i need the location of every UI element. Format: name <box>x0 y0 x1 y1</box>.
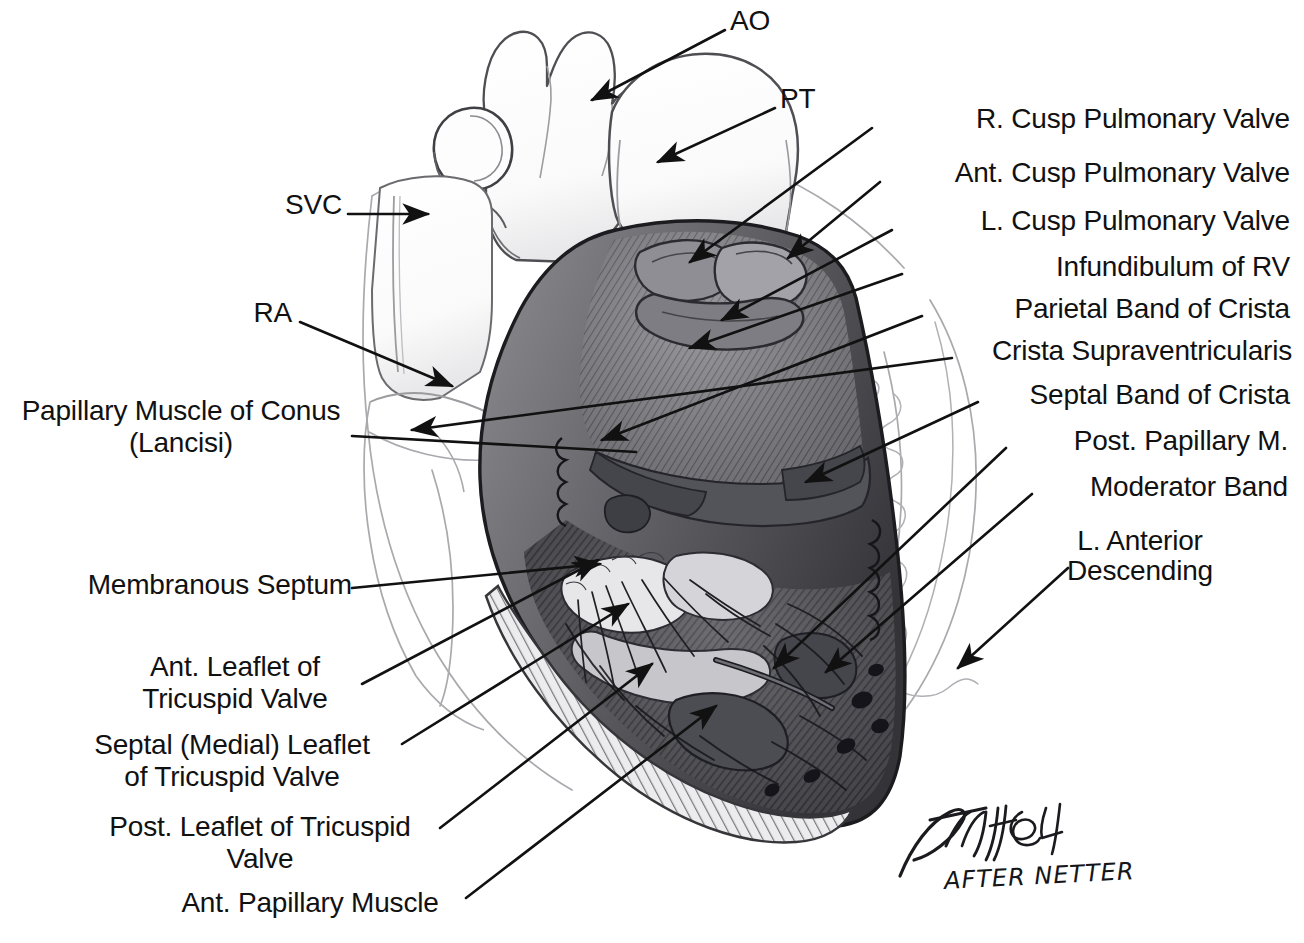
label-septal-leaflet-tricuspid-line1: Septal (Medial) Leaflet <box>60 730 404 760</box>
label-ant-leaflet-tricuspid-line1: Ant. Leaflet of <box>110 652 360 682</box>
label-pt: PT <box>780 84 815 114</box>
superior-vena-cava <box>372 176 492 400</box>
label-septal-band-of-crista: Septal Band of Crista <box>870 380 1290 410</box>
label-ant-leaflet-tricuspid-line2: Tricuspid Valve <box>110 684 360 714</box>
label-l-cusp-pulmonary-valve: L. Cusp Pulmonary Valve <box>870 206 1290 236</box>
label-post-leaflet-tricuspid-line2: Valve <box>80 844 440 874</box>
label-papillary-muscle-of-conus-line2: (Lancisi) <box>6 428 356 458</box>
leader-ant-cusp <box>788 182 880 258</box>
label-ao: AO <box>730 6 770 36</box>
label-septal-leaflet-tricuspid-line2: of Tricuspid Valve <box>60 762 404 792</box>
label-ant-papillary-muscle: Ant. Papillary Muscle <box>150 888 470 918</box>
anatomy-figure: AO PT SVC RA R. Cusp Pulmonary Valve Ant… <box>0 0 1304 943</box>
label-crista-supraventricularis: Crista Supraventricularis <box>870 336 1292 366</box>
label-papillary-muscle-of-conus-line1: Papillary Muscle of Conus <box>6 396 356 426</box>
label-post-papillary-m: Post. Papillary M. <box>870 426 1288 456</box>
label-l-anterior-descending-line2: Descending <box>1010 556 1270 586</box>
label-ant-cusp-pulmonary-valve: Ant. Cusp Pulmonary Valve <box>870 158 1290 188</box>
label-post-leaflet-tricuspid-line1: Post. Leaflet of Tricuspid <box>80 812 440 842</box>
label-parietal-band-of-crista: Parietal Band of Crista <box>870 294 1290 324</box>
label-r-cusp-pulmonary-valve: R. Cusp Pulmonary Valve <box>870 104 1290 134</box>
label-ra: RA <box>150 298 292 328</box>
label-membranous-septum: Membranous Septum <box>0 570 352 600</box>
label-moderator-band: Moderator Band <box>870 472 1288 502</box>
label-l-anterior-descending-line1: L. Anterior <box>1010 526 1270 556</box>
label-infundibulum-of-rv: Infundibulum of RV <box>870 252 1290 282</box>
label-svc: SVC <box>200 190 342 220</box>
